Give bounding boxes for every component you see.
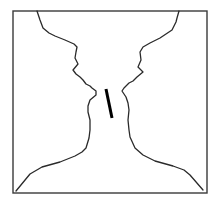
right-face-profile: [122, 11, 203, 190]
left-face-profile: [16, 11, 96, 191]
oriented-bar: [106, 89, 112, 118]
rubin-vase-figure: [0, 0, 220, 203]
